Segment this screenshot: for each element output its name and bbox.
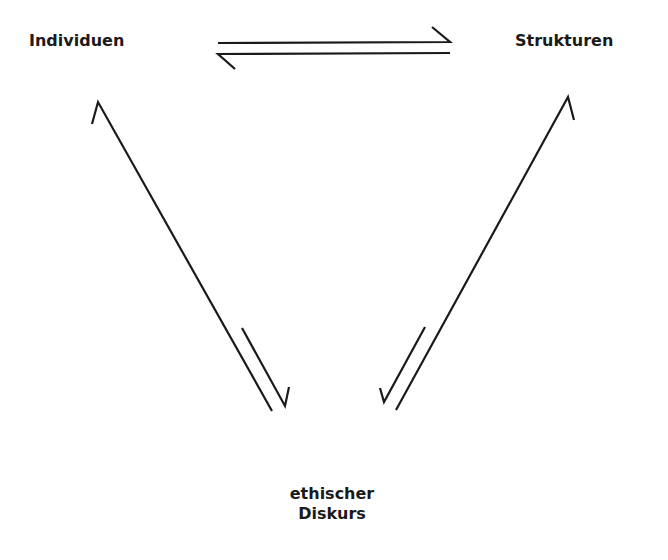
harpoon-right-icon xyxy=(218,27,450,43)
arrow-individuen-strukturen xyxy=(218,27,450,69)
arrow-diskurs-individuen xyxy=(92,102,289,411)
harpoon-up-icon xyxy=(92,102,272,411)
node-label: Individuen xyxy=(29,31,124,50)
arrows-layer xyxy=(0,0,668,560)
harpoon-up-icon xyxy=(396,97,574,410)
arrow-diskurs-strukturen xyxy=(380,97,574,410)
harpoon-down-icon xyxy=(242,328,289,406)
harpoon-down-icon xyxy=(380,327,425,402)
harpoon-left-icon xyxy=(218,53,450,69)
node-label-line2: Diskurs xyxy=(282,504,382,524)
node-strukturen: Strukturen xyxy=(515,31,613,51)
diagram-canvas: Individuen Strukturen ethischer Diskurs xyxy=(0,0,668,560)
node-label: Strukturen xyxy=(515,31,613,50)
node-label-line1: ethischer xyxy=(282,484,382,504)
node-ethischer-diskurs: ethischer Diskurs xyxy=(282,484,382,524)
node-individuen: Individuen xyxy=(29,31,124,51)
